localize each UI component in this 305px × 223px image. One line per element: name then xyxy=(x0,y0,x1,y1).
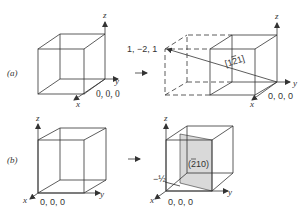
origin-label: 0, 0, 0 xyxy=(40,197,65,207)
plane-label: (210) xyxy=(188,159,209,169)
origin-label: 0, 0, 0 xyxy=(268,91,293,101)
z-axis-label: z xyxy=(35,113,40,123)
x-axis-label: x xyxy=(149,195,154,205)
y-axis-label: y xyxy=(99,189,104,199)
y-axis-label: y xyxy=(114,76,119,86)
direction-vector xyxy=(167,49,277,82)
z-axis-label: z xyxy=(274,11,279,21)
point-label: 1, −2, 1 xyxy=(127,44,157,54)
z-axis-label: z xyxy=(163,113,168,123)
direction-label: [121] xyxy=(224,53,246,68)
y-axis-label: y xyxy=(292,78,297,88)
panel-a-left-cube: z y x 0, 0, 0 xyxy=(38,10,120,109)
y-axis-label: y xyxy=(227,187,232,197)
z-axis-label: z xyxy=(102,10,107,20)
panel-b-label: (b) xyxy=(7,155,18,165)
intercept-label: −½ xyxy=(153,174,166,184)
panel-a-label: (a) xyxy=(7,68,18,78)
x-axis-label: x xyxy=(249,99,254,109)
crystallography-diagram: (a) z y x 0, 0, 0 xyxy=(0,0,305,223)
svg-text:(210): (210) xyxy=(188,159,209,169)
x-axis-label: x xyxy=(22,195,27,205)
panel-b-left-cube: z y x 0, 0, 0 xyxy=(22,113,106,207)
panel-b-right-cube: z y x 0, 0, 0 −½ (210) xyxy=(149,113,233,207)
origin-label: 0, 0, 0 xyxy=(96,89,120,99)
x-axis-label: x xyxy=(75,99,80,109)
origin-label: 0, 0, 0 xyxy=(168,197,193,207)
panel-a-right-cube: z y x 0, 0, 0 1, −2, 1 [121] xyxy=(127,11,297,109)
